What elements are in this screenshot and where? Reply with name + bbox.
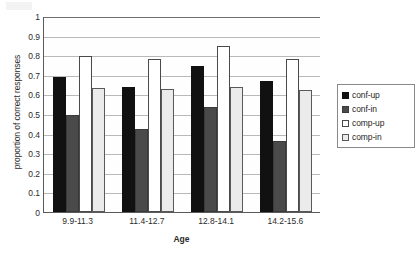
legend-item-label: comp-up (352, 118, 384, 128)
y-axis-tick-label: 0.5 (24, 110, 40, 120)
plot-area (43, 17, 320, 213)
x-axis-tick-label: 14.2-15.6 (251, 216, 320, 226)
legend-item-label: conf-in (352, 104, 377, 114)
legend-swatch-icon (342, 134, 349, 141)
bar-comp-up-9.9-11.3 (79, 56, 92, 212)
bar-conf-in-14.2-15.6 (273, 141, 286, 212)
y-axis-tick-label: 0 (24, 208, 40, 218)
bar-conf-in-9.9-11.3 (66, 115, 79, 212)
bar-group (182, 17, 251, 212)
legend-item-comp-up[interactable]: comp-up (342, 116, 411, 130)
legend-item-conf-up[interactable]: conf-up (342, 88, 411, 102)
legend: conf-upconf-incomp-upcomp-in (337, 84, 415, 148)
y-axis-tick-label: 1 (24, 12, 40, 22)
y-axis-tick-label: 0.2 (24, 169, 40, 179)
x-axis-tick-label: 12.8-14.1 (182, 216, 251, 226)
y-axis-tick-label: 0.4 (24, 130, 40, 140)
bar-comp-in-14.2-15.6 (299, 90, 312, 213)
legend-swatch-icon (342, 92, 349, 99)
x-axis-title: Age (43, 234, 320, 244)
bar-conf-up-12.8-14.1 (191, 66, 204, 212)
y-axis-tick-label: 0.3 (24, 149, 40, 159)
bar-comp-up-11.4-12.7 (148, 59, 161, 212)
y-axis-tick-label: 0.8 (24, 51, 40, 61)
legend-swatch-icon (342, 106, 349, 113)
x-axis-tick-label: 11.4-12.7 (112, 216, 181, 226)
bar-conf-in-12.8-14.1 (204, 107, 217, 212)
y-axis-tick-label: 0.1 (24, 188, 40, 198)
y-axis-tick-labels: 00.10.20.30.40.50.60.70.80.91 (24, 17, 40, 213)
bar-conf-up-11.4-12.7 (122, 87, 135, 212)
y-axis-tick-label: 0.7 (24, 71, 40, 81)
x-axis-tick-label: 9.9-11.3 (43, 216, 112, 226)
x-axis-tick-labels: 9.9-11.311.4-12.712.8-14.114.2-15.6 (43, 216, 320, 226)
bar-group (44, 17, 113, 212)
bar-comp-in-12.8-14.1 (230, 87, 243, 212)
legend-item-label: conf-up (352, 90, 380, 100)
bar-comp-up-14.2-15.6 (286, 59, 299, 212)
y-axis-title: proportion of correct responses (12, 27, 22, 197)
scan-artifact (6, 2, 32, 10)
bar-group (113, 17, 182, 212)
legend-item-comp-in[interactable]: comp-in (342, 130, 411, 144)
bars-layer (44, 17, 320, 212)
bar-conf-up-14.2-15.6 (260, 81, 273, 212)
legend-item-label: comp-in (352, 132, 382, 142)
legend-item-conf-in[interactable]: conf-in (342, 102, 411, 116)
bar-conf-up-9.9-11.3 (53, 77, 66, 212)
bar-comp-up-12.8-14.1 (217, 46, 230, 212)
legend-swatch-icon (342, 120, 349, 127)
y-axis-tick-label: 0.6 (24, 90, 40, 100)
bar-comp-in-11.4-12.7 (161, 89, 174, 212)
bar-chart-figure: proportion of correct responses 00.10.20… (0, 0, 418, 262)
y-axis-tick-label: 0.9 (24, 32, 40, 42)
bar-group (251, 17, 320, 212)
bar-conf-in-11.4-12.7 (135, 129, 148, 212)
bar-comp-in-9.9-11.3 (92, 88, 105, 212)
